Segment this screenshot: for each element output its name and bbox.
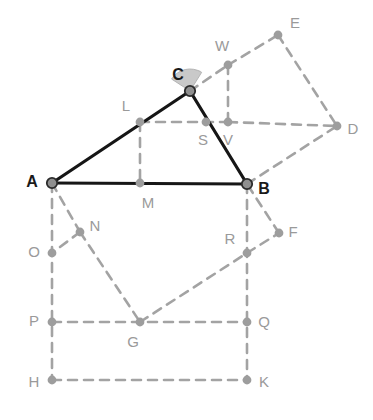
point-marker-O[interactable] (48, 249, 57, 258)
point-marker-E[interactable] (274, 31, 283, 40)
edge-N-G (80, 232, 140, 322)
point-marker-K[interactable] (243, 376, 252, 385)
point-label-L: L (122, 97, 130, 114)
edge-V-D (228, 122, 337, 126)
point-label-S: S (198, 131, 208, 148)
point-label-G: G (127, 333, 139, 350)
point-label-K: K (259, 373, 269, 390)
point-marker-L[interactable] (136, 118, 145, 127)
edge-W-E (228, 35, 278, 65)
point-label-B: B (258, 180, 270, 197)
edge-A-N (52, 183, 80, 232)
point-label-H: H (29, 373, 40, 390)
point-marker-A[interactable] (47, 178, 57, 188)
geometry-canvas: ABCDEFGHKLMNOPQRSVW (0, 0, 373, 420)
point-marker-N[interactable] (76, 228, 85, 237)
point-label-A: A (26, 173, 38, 190)
point-label-R: R (225, 230, 236, 247)
point-label-M: M (142, 194, 155, 211)
point-marker-Q[interactable] (243, 318, 252, 327)
construction-lines-group (52, 35, 337, 380)
point-label-Q: Q (258, 313, 270, 330)
point-marker-F[interactable] (275, 229, 284, 238)
edge-G-R (140, 253, 247, 322)
edge-B-D (247, 126, 337, 184)
point-label-V: V (223, 131, 233, 148)
point-label-D: D (348, 120, 359, 137)
edge-AB (52, 183, 247, 184)
edge-N-O (52, 232, 80, 253)
point-label-E: E (290, 14, 300, 31)
point-label-P: P (29, 312, 39, 329)
edge-E-D (278, 35, 337, 126)
edge-R-F (247, 233, 279, 253)
point-marker-R[interactable] (243, 249, 252, 258)
point-label-N: N (90, 217, 101, 234)
point-marker-M[interactable] (136, 179, 145, 188)
point-marker-P[interactable] (48, 318, 57, 327)
point-marker-W[interactable] (224, 61, 233, 70)
geometry-diagram: ABCDEFGHKLMNOPQRSVW (0, 0, 373, 420)
point-marker-D[interactable] (333, 122, 342, 131)
point-label-F: F (288, 223, 297, 240)
point-marker-H[interactable] (48, 376, 57, 385)
point-marker-B[interactable] (242, 179, 252, 189)
point-marker-G[interactable] (136, 318, 145, 327)
point-marker-C[interactable] (185, 86, 195, 96)
point-label-O: O (28, 243, 40, 260)
point-label-W: W (215, 37, 230, 54)
point-marker-V[interactable] (224, 118, 233, 127)
triangle-edges-group (52, 91, 247, 184)
point-marker-S[interactable] (202, 118, 211, 127)
point-label-C: C (172, 66, 184, 83)
